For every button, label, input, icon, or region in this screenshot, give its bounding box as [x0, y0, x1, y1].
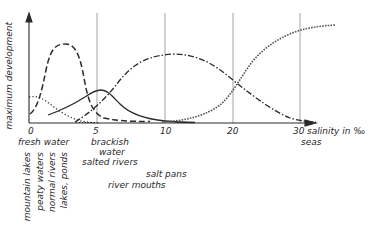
x-axis-label: salinity in ‰ — [307, 126, 365, 136]
label-normal-rivers: normal rivers — [47, 152, 57, 212]
label-salt-pans: salt pans — [146, 169, 187, 179]
label-seas: seas — [301, 137, 321, 147]
label-water: water — [99, 147, 125, 157]
y-axis-arrow-icon — [26, 13, 32, 22]
tick-5: 5 — [93, 126, 99, 136]
label-fresh-water: fresh water — [18, 137, 69, 147]
tick-0: 0 — [28, 126, 34, 136]
label-river-mouths: river mouths — [108, 180, 166, 190]
curve-circles — [162, 25, 336, 122]
tick-30: 30 — [293, 126, 304, 136]
label-lakes-ponds: lakes, ponds — [59, 152, 69, 209]
label-mountain-lakes: mountain lakes — [22, 152, 32, 221]
tick-10: 10 — [160, 126, 171, 136]
y-axis-label: maximum development — [4, 22, 14, 130]
curve-solid — [48, 90, 195, 123]
tick-20: 20 — [227, 126, 238, 136]
label-brackish: brackish — [91, 137, 129, 147]
curve-dash-dot — [75, 54, 316, 122]
label-peaty-waters: peaty waters — [35, 152, 45, 211]
label-salted-rivers: salted rivers — [82, 157, 138, 167]
curve-dashed — [30, 44, 150, 122]
